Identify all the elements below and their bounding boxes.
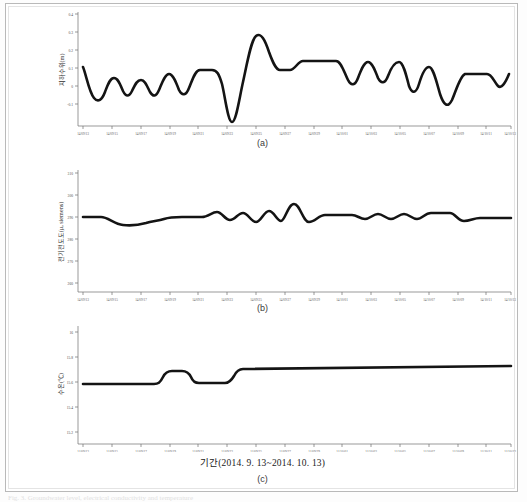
chart-b-xtick-11: 14/10/05 [394,298,406,302]
chart-c-x-ticks: 14/09/13 14/09/15 14/09/17 14/09/19 14/0… [77,444,516,452]
plot-c: 16 15.8 15.6 15.4 15.2 수온(℃) [6,322,519,452]
chart-c-xtick-8: 14/09/29 [308,450,320,452]
chart-a-xtick-4: 14/09/21 [192,132,204,136]
page-frame: 0.4 0.3 0.2 0.1 0 -0.1 지하수위(m) [5,3,518,492]
chart-a-xtick-6: 14/09/25 [250,132,262,136]
chart-panel-a: 0.4 0.3 0.2 0.1 0 -0.1 지하수위(m) [6,4,519,144]
chart-a-y-axis-title: 지하수위(m) [58,54,66,87]
chart-b-xtick-0: 14/09/13 [77,298,89,302]
chart-c-xtick-4: 14/09/21 [192,450,204,452]
chart-a-svg: 0.4 0.3 0.2 0.1 0 -0.1 지하수위(m) [6,4,519,144]
chart-b-xtick-14: 14/10/11 [480,298,492,302]
panel-b-label: (b) [6,303,519,313]
chart-a-xtick-12: 14/10/07 [423,132,435,136]
chart-c-xtick-10: 14/10/03 [365,450,377,452]
chart-a-ytick-0: 0.4 [69,13,74,17]
chart-b-y-ticks: 310 300 290 280 270 260 [68,172,78,286]
chart-b-xtick-8: 14/09/29 [308,298,320,302]
plot-b: 310 300 290 280 270 260 전기전도도(μ, siemens… [6,164,519,304]
chart-a-ytick-3: 0.1 [69,67,74,71]
chart-c-ytick-2: 15.6 [67,381,73,385]
chart-b-series-line [83,204,511,225]
chart-b-xtick-2: 14/09/17 [135,298,147,302]
chart-b-xtick-3: 14/09/19 [164,298,176,302]
chart-b-xtick-9: 14/10/01 [336,298,348,302]
chart-c-xtick-9: 14/10/01 [336,450,348,452]
chart-a-xtick-5: 14/09/23 [221,132,233,136]
chart-a-xtick-15: 14/10/13 [504,132,516,136]
plot-a: 0.4 0.3 0.2 0.1 0 -0.1 지하수위(m) [6,4,519,144]
chart-b-x-ticks: 14/09/13 14/09/15 14/09/17 14/09/19 14/0… [77,292,516,302]
chart-c-ytick-3: 15.4 [67,406,73,410]
chart-panel-b: 310 300 290 280 270 260 전기전도도(μ, siemens… [6,164,519,304]
chart-a-xtick-3: 14/09/19 [164,132,176,136]
chart-a-series-line [83,35,509,122]
chart-a-ytick-4: 0 [71,85,73,89]
chart-c-xtick-12: 14/10/07 [423,450,435,452]
chart-c-xtick-7: 14/09/27 [279,450,291,452]
chart-c-xtick-5: 14/09/23 [221,450,233,452]
chart-b-ytick-5: 260 [68,282,74,286]
page-bottom-caption: Fig. 3. Groundwater level, electrical co… [8,494,527,502]
chart-c-xtick-13: 14/10/09 [452,450,464,452]
scanned-page: 0.4 0.3 0.2 0.1 0 -0.1 지하수위(m) [0,0,527,502]
chart-a-ytick-2: 0.2 [69,49,74,53]
chart-c-ytick-0: 16 [69,331,73,335]
chart-b-xtick-6: 14/09/25 [250,298,262,302]
chart-c-xtick-1: 14/09/15 [106,450,118,452]
chart-a-xtick-8: 14/09/29 [308,132,320,136]
chart-a-xtick-13: 14/10/09 [452,132,464,136]
chart-b-ytick-2: 290 [68,216,74,220]
chart-c-xtick-3: 14/09/19 [164,450,176,452]
chart-b-ytick-0: 310 [68,172,74,176]
chart-b-svg: 310 300 290 280 270 260 전기전도도(μ, siemens… [6,164,519,304]
chart-a-xtick-0: 14/09/13 [77,132,89,136]
chart-a-xtick-10: 14/10/03 [365,132,377,136]
chart-b-xtick-1: 14/09/15 [106,298,118,302]
chart-b-xtick-10: 14/10/03 [365,298,377,302]
chart-a-xtick-14: 14/10/11 [480,132,492,136]
chart-b-xtick-15: 14/10/13 [504,298,516,302]
chart-c-xtick-14: 14/10/11 [480,450,492,452]
chart-a-xtick-1: 14/09/15 [106,132,118,136]
chart-b-ytick-1: 300 [68,194,74,198]
chart-c-xtick-15: 14/10/13 [504,450,516,452]
chart-c-ytick-1: 15.8 [67,356,73,360]
chart-panel-c: 16 15.8 15.6 15.4 15.2 수온(℃) [6,322,519,452]
chart-a-ytick-5: -0.1 [67,103,73,107]
chart-c-xtick-6: 14/09/25 [250,450,262,452]
chart-c-y-axis-title: 수온(℃) [57,373,65,395]
chart-b-xtick-4: 14/09/21 [192,298,204,302]
chart-a-ytick-1: 0.3 [69,31,74,35]
chart-c-ytick-4: 15.2 [67,431,73,435]
chart-b-y-axis-title: 전기전도도(μ, siemens) [57,202,65,262]
chart-c-x-axis-caption: 기간(2014. 9. 13~2014. 10. 13) [6,455,519,469]
chart-c-xtick-2: 14/09/17 [135,450,147,452]
chart-b-xtick-13: 14/10/09 [452,298,464,302]
chart-b-xtick-7: 14/09/27 [279,298,291,302]
chart-c-series-line [83,366,511,384]
chart-a-y-ticks: 0.4 0.3 0.2 0.1 0 -0.1 [67,13,78,107]
chart-c-xtick-0: 14/09/13 [77,450,89,452]
chart-c-y-ticks: 16 15.8 15.6 15.4 15.2 [67,331,78,435]
chart-a-x-ticks: 14/09/13 14/09/15 14/09/17 14/09/19 14/0… [77,126,516,136]
chart-a-xtick-11: 14/10/05 [394,132,406,136]
chart-c-xtick-11: 14/10/05 [394,450,406,452]
chart-a-xtick-9: 14/10/01 [336,132,348,136]
chart-c-svg: 16 15.8 15.6 15.4 15.2 수온(℃) [6,322,519,452]
chart-b-ytick-4: 270 [68,260,74,264]
chart-b-xtick-5: 14/09/23 [221,298,233,302]
chart-a-xtick-7: 14/09/27 [279,132,291,136]
panel-a-label: (a) [6,138,519,148]
chart-b-ytick-3: 280 [68,238,74,242]
chart-a-xtick-2: 14/09/17 [135,132,147,136]
panel-c-label: (c) [6,474,519,484]
chart-b-xtick-12: 14/10/07 [423,298,435,302]
